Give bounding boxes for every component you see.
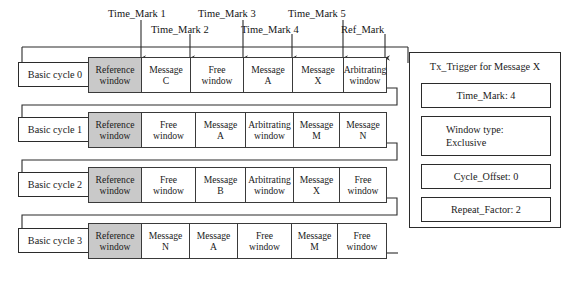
slot-free-window[interactable]: Free window [142, 113, 196, 147]
slot-line2: window [254, 185, 285, 197]
slot-line2: M [312, 130, 321, 142]
slot-message-a[interactable]: Message A [244, 58, 293, 92]
slot-message-n[interactable]: Message N [340, 113, 386, 147]
slot-message-b[interactable]: Message B [196, 168, 246, 202]
cycle-label-0-text: Basic cycle 0 [28, 69, 82, 80]
slot-message-m[interactable]: Message M [292, 224, 338, 258]
slot-line2: N [360, 130, 367, 142]
cycle-slots-1: Reference window Free window Message A A… [88, 112, 387, 148]
slot-line1: Message [346, 119, 380, 131]
slot-line2: window [100, 185, 131, 197]
slot-arbitrating-window[interactable]: Arbitrating window [344, 58, 386, 92]
slot-line2: A [210, 241, 217, 253]
slot-line1: Free [353, 230, 370, 242]
slot-line1: Free [208, 64, 225, 76]
field-line1: Window type: [422, 123, 550, 136]
slot-line2: X [313, 185, 320, 197]
slot-line2: B [217, 185, 223, 197]
slot-line2: window [153, 185, 184, 197]
tx-trigger-field-cycle-offset[interactable]: Cycle_Offset: 0 [421, 164, 551, 189]
time-mark-label-1: Time_Mark 1 [108, 8, 166, 20]
tx-trigger-title: Tx_Trigger for Message X [410, 61, 560, 72]
slot-line1: Message [149, 230, 183, 242]
time-mark-label-4: Time_Mark 4 [241, 24, 299, 36]
slot-line1: Message [301, 64, 335, 76]
slot-line2: window [100, 75, 131, 87]
slot-line1: Reference [96, 64, 135, 76]
slot-reference-window[interactable]: Reference window [89, 168, 142, 202]
slot-line1: Arbitrating [248, 119, 291, 131]
field-line1: Repeat_Factor: 2 [451, 203, 521, 216]
slot-line2: window [350, 75, 381, 87]
slot-message-c[interactable]: Message C [142, 58, 191, 92]
slot-free-window[interactable]: Free window [238, 224, 292, 258]
slot-line1: Message [149, 64, 183, 76]
slot-reference-window[interactable]: Reference window [89, 113, 142, 147]
slot-line1: Reference [96, 119, 135, 131]
slot-reference-window[interactable]: Reference window [89, 224, 142, 258]
cycle-label-0: Basic cycle 0 [18, 62, 92, 87]
slot-line1: Message [251, 64, 285, 76]
diagram-canvas: Time_Mark 1 Time_Mark 3 Time_Mark 5 Time… [0, 0, 570, 286]
tx-trigger-field-time-mark[interactable]: Time_Mark: 4 [421, 83, 551, 108]
slot-free-window[interactable]: Free window [191, 58, 244, 92]
slot-message-x[interactable]: Message X [293, 58, 344, 92]
slot-line1: Message [300, 174, 334, 186]
cycle-slots-2: Reference window Free window Message B A… [88, 167, 387, 203]
time-mark-label-2: Time_Mark 2 [151, 24, 209, 36]
cycle-slots-3: Reference window Message N Message A Fre… [88, 223, 387, 259]
field-line2: Exclusive [422, 136, 550, 149]
tx-trigger-field-repeat-factor[interactable]: Repeat_Factor: 2 [421, 197, 551, 222]
slot-line1: Message [298, 230, 332, 242]
slot-line1: Message [204, 174, 238, 186]
slot-message-a[interactable]: Message A [190, 224, 238, 258]
slot-line2: window [202, 75, 233, 87]
field-line1: Cycle_Offset: 0 [454, 170, 519, 183]
slot-line2: N [162, 241, 169, 253]
cycle-slots-0: Reference window Message C Free window M… [88, 57, 387, 93]
slot-line1: Free [160, 119, 177, 131]
slot-line1: Free [160, 174, 177, 186]
slot-line1: Free [256, 230, 273, 242]
slot-line2: A [217, 130, 224, 142]
cycle-label-2-text: Basic cycle 2 [28, 179, 82, 190]
slot-line2: window [348, 185, 379, 197]
cycle-label-1-text: Basic cycle 1 [28, 124, 82, 135]
tx-trigger-panel: Tx_Trigger for Message X Time_Mark: 4 Wi… [409, 52, 561, 228]
slot-line2: window [254, 130, 285, 142]
slot-line1: Message [204, 119, 238, 131]
cycle-label-3: Basic cycle 3 [18, 228, 92, 253]
slot-line2: X [315, 75, 322, 87]
slot-message-m[interactable]: Message M [294, 113, 340, 147]
slot-line1: Reference [96, 174, 135, 186]
slot-line1: Free [354, 174, 371, 186]
cycle-label-2: Basic cycle 2 [18, 172, 92, 197]
slot-message-n[interactable]: Message N [142, 224, 190, 258]
slot-arbitrating-window[interactable]: Arbitrating window [246, 168, 294, 202]
slot-line2: window [100, 130, 131, 142]
slot-line2: M [310, 241, 319, 253]
time-mark-label-5: Time_Mark 5 [288, 8, 346, 20]
slot-message-a[interactable]: Message A [196, 113, 246, 147]
ref-mark-label: Ref_Mark [341, 24, 384, 36]
slot-arbitrating-window[interactable]: Arbitrating window [246, 113, 294, 147]
time-mark-label-3: Time_Mark 3 [198, 8, 256, 20]
slot-free-window[interactable]: Free window [338, 224, 386, 258]
slot-line2: A [265, 75, 272, 87]
slot-line1: Message [197, 230, 231, 242]
slot-free-window[interactable]: Free window [340, 168, 386, 202]
slot-message-x[interactable]: Message X [294, 168, 340, 202]
slot-line2: window [347, 241, 378, 253]
slot-line2: C [163, 75, 169, 87]
slot-line2: window [249, 241, 280, 253]
slot-line2: window [100, 241, 131, 253]
cycle-label-3-text: Basic cycle 3 [28, 235, 82, 246]
slot-free-window[interactable]: Free window [142, 168, 196, 202]
slot-line2: window [153, 130, 184, 142]
slot-line1: Message [300, 119, 334, 131]
slot-line1: Reference [96, 230, 135, 242]
tx-trigger-field-window-type[interactable]: Window type: Exclusive [421, 116, 551, 156]
field-line1: Time_Mark: 4 [457, 89, 516, 102]
cycle-label-1: Basic cycle 1 [18, 117, 92, 142]
slot-reference-window[interactable]: Reference window [89, 58, 142, 92]
